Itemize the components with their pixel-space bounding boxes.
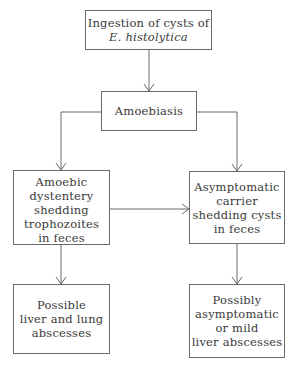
node-amoebiasis: Amoebiasis [101, 91, 197, 131]
node-ingestion: Ingestion of cysts of E. histolytica [85, 10, 212, 50]
node-liver-lung: Possible liver and lung abscesses [13, 284, 110, 354]
node-mild-liver-line-3: or mild [215, 321, 258, 335]
node-carrier-line-2: carrier [216, 194, 258, 208]
node-dysentery: Amoebic dystentery shedding trophozoites… [13, 170, 110, 245]
node-carrier-line-3: shedding cysts [192, 208, 281, 222]
node-dysentery-line-4: trophozoites [24, 217, 99, 231]
node-liver-lung-line-2: liver and lung [20, 312, 104, 326]
node-mild-liver-line-4: liver abscesses [192, 335, 283, 349]
node-dysentery-line-5: in feces [38, 231, 85, 245]
node-mild-liver-line-1: Possibly [213, 293, 262, 307]
node-dysentery-line-3: shedding [34, 203, 89, 217]
node-liver-lung-line-1: Possible [37, 298, 86, 312]
node-carrier-line-1: Asymptomatic [194, 180, 279, 194]
node-dysentery-line-2: dystentery [29, 189, 93, 203]
node-dysentery-line-1: Amoebic [36, 175, 88, 189]
node-amoebiasis-label: Amoebiasis [115, 104, 183, 118]
node-mild-liver-line-2: asymptomatic [195, 307, 279, 321]
node-ingestion-line-1: Ingestion of cysts of [88, 16, 210, 30]
node-liver-lung-line-3: abscesses [32, 326, 92, 340]
node-ingestion-line-2: E. histolytica [109, 30, 188, 44]
node-mild-liver: Possibly asymptomatic or mild liver absc… [189, 284, 285, 358]
node-carrier-line-4: in feces [214, 222, 261, 236]
node-carrier: Asymptomatic carrier shedding cysts in f… [189, 171, 285, 244]
